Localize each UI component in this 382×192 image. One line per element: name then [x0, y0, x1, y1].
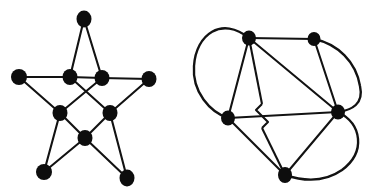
- edge-left-to-right: [228, 112, 338, 118]
- vertex-top-point: [77, 11, 92, 28]
- left-graph-edges: [19, 19, 149, 178]
- vertex-bottom: [278, 167, 292, 183]
- right-graph-vertices: [221, 31, 345, 184]
- edge-left-to-inner-left: [19, 77, 60, 113]
- right-graph-edges: [228, 38, 338, 175]
- edge-top-to-inner-top-left: [70, 19, 84, 77]
- left-graph-panel: [11, 11, 157, 187]
- vertex-inner-left: [53, 105, 68, 121]
- vertex-top-right: [308, 32, 321, 46]
- edge-bottom-right-to-inner-right: [110, 113, 127, 178]
- left-graph-vertices: [11, 11, 157, 187]
- edge-topleft-to-left: [228, 38, 249, 118]
- edge-right-to-inner-right: [110, 79, 149, 113]
- right-graph-panel: [194, 28, 361, 183]
- edge-topleft-to-topright: [249, 38, 314, 39]
- arc-top-right-to-right-vertex: [314, 39, 361, 112]
- edge-left-to-bottom: [228, 118, 285, 175]
- vertex-right-point: [142, 71, 157, 87]
- edge-bottom-to-right: [285, 112, 338, 175]
- vertex-inner-right: [103, 105, 118, 121]
- vertex-left: [221, 111, 235, 126]
- graph-figure-svg: [0, 0, 382, 192]
- edge-topleft-to-bottom-lower-segment: [262, 128, 285, 175]
- edge-top-to-inner-top-right: [84, 19, 102, 78]
- edge-bottom-left-to-inner-left: [44, 113, 60, 172]
- vertex-right: [331, 105, 345, 120]
- vertex-bottom-right-point: [120, 170, 135, 187]
- vertex-bottom-left-point: [36, 164, 52, 180]
- vertex-top-left: [242, 31, 256, 46]
- arc-right-vertex-to-bottom-vertex: [285, 112, 358, 180]
- vertex-inner-top-left: [63, 69, 78, 85]
- figure-root: Two graph drawings: [0, 0, 382, 192]
- vertex-left-point: [11, 69, 27, 85]
- vertex-inner-bottom: [78, 130, 93, 146]
- vertex-inner-top-right: [95, 70, 110, 86]
